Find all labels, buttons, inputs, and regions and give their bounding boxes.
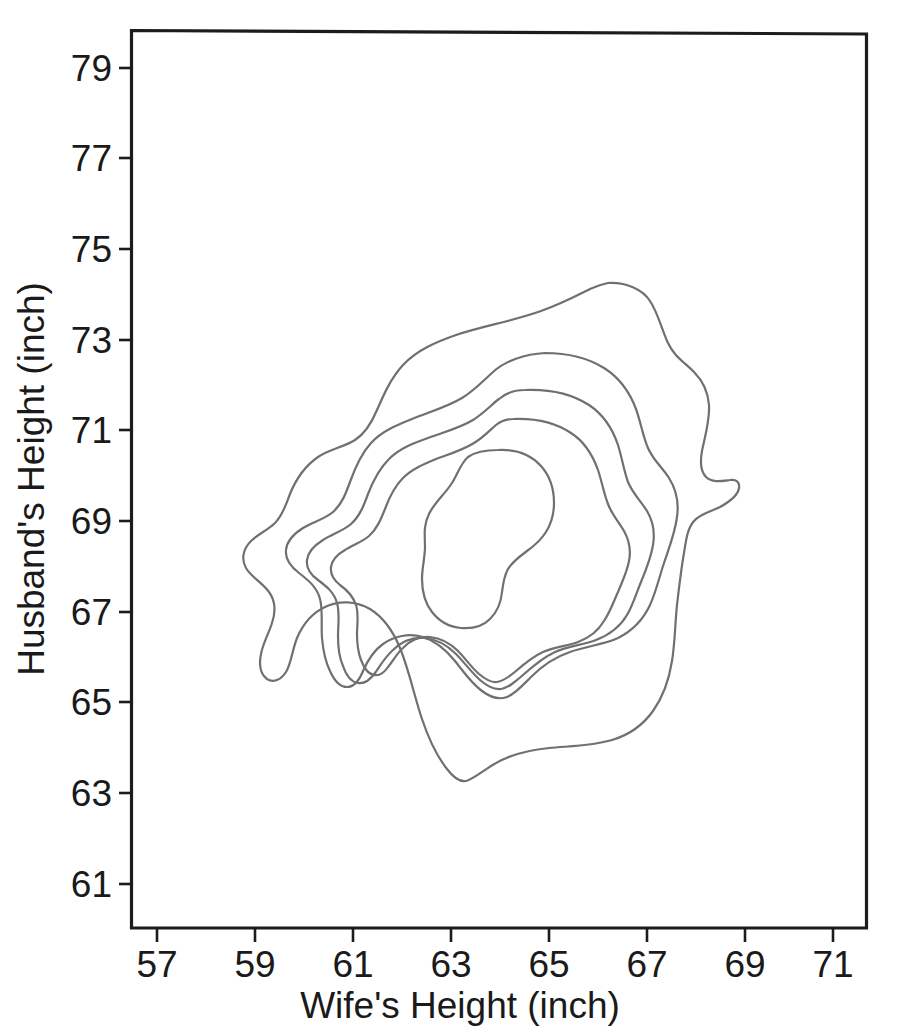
y-tick-label-67: 67 [71,592,112,633]
x-tick-label-69: 69 [724,944,765,985]
y-axis-title: Husband's Height (inch) [11,282,52,676]
x-tick-label-71: 71 [812,944,853,985]
y-tick-label-79: 79 [71,48,112,89]
x-tick-label-63: 63 [430,944,471,985]
y-tick-label-75: 75 [71,229,112,270]
x-tick-label-67: 67 [626,944,667,985]
y-tick-label-65: 65 [71,682,112,723]
y-tick-label-73: 73 [71,320,112,361]
y-tick-label-71: 71 [71,410,112,451]
x-axis-title: Wife's Height (inch) [300,985,620,1026]
y-tick-label-61: 61 [71,864,112,905]
contour-plot-figure: 79 77 75 73 71 69 67 65 63 61 57 59 61 [0,0,903,1031]
x-tick-label-59: 59 [234,944,275,985]
y-tick-label-63: 63 [71,773,112,814]
x-tick-label-57: 57 [136,944,177,985]
x-tick-label-65: 65 [528,944,569,985]
contour-plot-canvas: 79 77 75 73 71 69 67 65 63 61 57 59 61 [0,0,903,1031]
x-tick-label-61: 61 [332,944,373,985]
y-tick-label-69: 69 [71,501,112,542]
figure-background [0,0,903,1031]
y-tick-label-77: 77 [71,138,112,179]
